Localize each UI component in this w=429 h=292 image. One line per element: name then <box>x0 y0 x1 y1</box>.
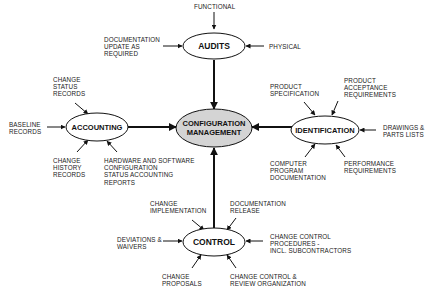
arrow-product-spec <box>304 102 315 115</box>
arrow-product-acceptance <box>332 101 338 115</box>
label-functional: FUNCTIONAL <box>194 3 235 10</box>
label-change-control-review: CHANGE CONTROL & REVIEW ORGANIZATION <box>230 273 306 287</box>
label-baseline-records: BASELINE RECORDS <box>9 121 41 135</box>
label-documentation-update: DOCUMENTATION UPDATE AS REQUIRED <box>104 36 160 58</box>
label-drawings-parts-lists: DRAWINGS & PARTS LISTS <box>383 124 424 138</box>
center-label-line2: MANAGEMENT <box>187 128 242 137</box>
arrow-change-history <box>77 140 88 152</box>
node-audits-label: AUDITS <box>198 41 230 51</box>
label-change-control-procedures: CHANGE CONTROL PROCEDURES - INCL. SUBCON… <box>270 233 351 255</box>
label-change-proposals: CHANGE PROPOSALS <box>162 273 202 287</box>
label-change-status-records: CHANGE STATUS RECORDS <box>53 76 85 98</box>
label-change-history-records: CHANGE HISTORY RECORDS <box>53 157 85 179</box>
label-computer-program-documentation: COMPUTER PROGRAM DOCUMENTATION <box>270 160 326 182</box>
arrow-change-control-review <box>227 255 236 268</box>
node-control-label: CONTROL <box>193 237 235 247</box>
label-hw-sw-reports: HARDWARE AND SOFTWARE CONFIGURATION STAT… <box>104 157 195 186</box>
node-accounting-label: ACCOUNTING <box>72 123 123 132</box>
label-product-specification: PRODUCT SPECIFICATION <box>270 83 319 97</box>
arrow-documentation-release <box>227 218 236 230</box>
arrow-change-status <box>75 103 88 114</box>
label-documentation-release: DOCUMENTATION RELEASE <box>230 200 286 214</box>
center-label-line1: CONFIGURATION <box>183 119 246 128</box>
arrow-computer-program <box>305 144 315 157</box>
label-deviations-waivers: DEVIATIONS & WAIVERS <box>117 236 162 250</box>
node-identification-label: IDENTIFICATION <box>295 126 354 135</box>
label-product-acceptance: PRODUCT ACCEPTANCE REQUIREMENTS <box>344 77 396 99</box>
diagram-canvas: AUDITS ACCOUNTING CONFIGURATION MANAGEME… <box>0 0 429 292</box>
arrow-hw-sw <box>107 141 117 152</box>
label-change-implementation: CHANGE IMPLEMENTATION <box>150 200 206 214</box>
arrow-change-proposals <box>192 255 201 268</box>
arrow-performance <box>336 145 345 157</box>
label-physical: PHYSICAL <box>269 43 301 50</box>
label-performance-requirements: PERFORMANCE REQUIREMENTS <box>344 160 396 174</box>
